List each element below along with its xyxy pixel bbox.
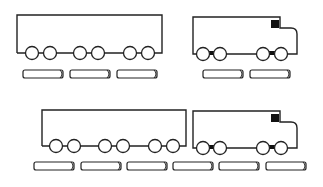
- wheel-icon: [214, 142, 227, 155]
- cab-window-icon: [271, 20, 279, 28]
- cylinder-bar: [250, 70, 290, 78]
- wheel-icon: [44, 47, 57, 60]
- wheel-icon: [74, 47, 87, 60]
- trucks-diagram: [0, 0, 323, 187]
- cylinder-bar: [117, 70, 157, 78]
- trailer-body: [17, 15, 162, 53]
- wheel-icon: [99, 140, 112, 153]
- trailer-body: [42, 110, 186, 146]
- cylinder-bar: [70, 70, 110, 78]
- wheel-icon: [197, 48, 210, 61]
- wheel-icon: [257, 48, 270, 61]
- cab-window-icon: [271, 114, 279, 122]
- wheel-icon: [275, 48, 288, 61]
- wheel-icon: [142, 47, 155, 60]
- cylinder-bar: [173, 162, 213, 170]
- wheel-icon: [167, 140, 180, 153]
- cylinder-bar: [23, 70, 63, 78]
- cylinder-bar: [219, 162, 259, 170]
- cylinder-bar: [203, 70, 243, 78]
- wheel-icon: [257, 142, 270, 155]
- wheel-icon: [149, 140, 162, 153]
- wheel-icon: [275, 142, 288, 155]
- cylinder-bar: [266, 162, 306, 170]
- cylinder-bar: [34, 162, 74, 170]
- wheel-icon: [26, 47, 39, 60]
- wheel-icon: [50, 140, 63, 153]
- wheel-icon: [214, 48, 227, 61]
- wheel-icon: [92, 47, 105, 60]
- wheel-icon: [197, 142, 210, 155]
- cylinder-bar: [127, 162, 167, 170]
- cylinder-bar: [81, 162, 121, 170]
- wheel-icon: [124, 47, 137, 60]
- wheel-icon: [117, 140, 130, 153]
- wheel-icon: [68, 140, 81, 153]
